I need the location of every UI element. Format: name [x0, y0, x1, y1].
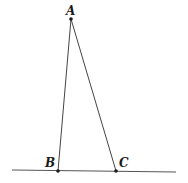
- baseline: [12, 170, 176, 172]
- point-c: [114, 169, 118, 173]
- segment-ab: [58, 19, 71, 171]
- label-a: A: [65, 4, 75, 18]
- point-b: [56, 169, 60, 173]
- label-b: B: [44, 156, 55, 170]
- label-c: C: [119, 156, 129, 170]
- segment-ac: [71, 19, 116, 171]
- triangle-diagram: A B C: [0, 0, 188, 183]
